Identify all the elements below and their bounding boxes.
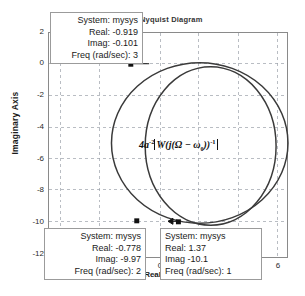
x-tick-6: 6 [276, 262, 280, 270]
datatip-real: Real: -0.919 [55, 27, 138, 39]
datatip-system: System: mysys [55, 15, 138, 27]
nyquist-figure: Nyquist Diagram Imaginary Axis Real Axis… [0, 0, 305, 296]
datatip-real: Real: -0.778 [49, 243, 141, 255]
datatip-freq-2[interactable]: System: mysys Real: -0.778 Imag: -9.97 F… [44, 228, 146, 280]
datatip-imag: Imag: -0.101 [55, 38, 138, 50]
datatip-freq: Freq (rad/sec): 2 [49, 266, 141, 278]
marker-freq-2[interactable] [134, 218, 139, 223]
plot-area: 4a-2W(j(Ω − ω0))-1 [48, 32, 288, 258]
datatip-freq-1[interactable]: System: mysys Real: 1.37 Imag -10.1 Freq… [160, 228, 262, 280]
datatip-real: Real: 1.37 [165, 243, 257, 255]
formula-coefficient: 4a [139, 139, 149, 150]
formula-body: W(j(Ω − ω [156, 139, 200, 150]
datatip-imag: Imag: -9.97 [49, 254, 141, 266]
datatip-imag: Imag -10.1 [165, 254, 257, 266]
datatip-freq-3[interactable]: System: mysys Real: -0.919 Imag: -0.101 … [50, 12, 143, 64]
datatip-freq: Freq (rad/sec): 1 [165, 266, 257, 278]
datatip-system: System: mysys [49, 231, 141, 243]
datatip-freq: Freq (rad/sec): 3 [55, 50, 138, 62]
formula-inverse-exponent: -1 [210, 138, 215, 145]
datatip-system: System: mysys [165, 231, 257, 243]
formula-annotation: 4a-2W(j(Ω − ω0))-1 [139, 136, 218, 155]
formula-magnitude-bars: W(j(Ω − ω0))-1 [154, 139, 217, 150]
